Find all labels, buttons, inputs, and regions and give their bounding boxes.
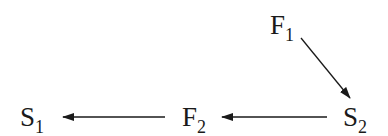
node-f2: F2 [182,104,206,131]
node-f2-sub: 2 [197,117,206,136]
node-s1-base: S [20,102,35,132]
node-s2-base: S [343,102,358,132]
node-s1-sub: 1 [35,117,44,136]
node-s2-sub: 2 [358,117,367,136]
diagram-canvas: F1 S2 F2 S1 [0,0,388,136]
node-s2: S2 [343,104,367,131]
node-s1: S1 [20,104,44,131]
node-f1-sub: 1 [285,25,294,45]
edge-f1-s2-arrow [301,38,350,98]
node-f2-base: F [182,102,197,132]
node-f1-base: F [270,10,285,40]
node-f1: F1 [270,12,294,39]
